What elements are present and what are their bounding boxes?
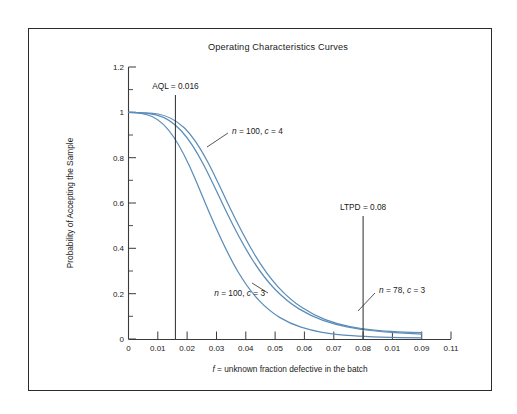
x-tick-label: 0.02 — [179, 344, 195, 353]
curve-n78-c3-label: n = 78, c = 3 — [379, 285, 426, 295]
curve-n100-c4-label-eq: = 100, — [237, 126, 265, 136]
x-tick-label: 0.04 — [238, 344, 254, 353]
x-tick-label: 0.09 — [414, 344, 430, 353]
y-axis-title: Probability of Accepting the Sample — [65, 137, 75, 268]
curve-n78-c3 — [129, 112, 422, 334]
aql-label: AQL = 0.016 — [152, 81, 199, 91]
y-tick-label: 1.2 — [113, 63, 125, 72]
curve-n78-c3-label-eq: = 78, — [384, 285, 407, 295]
y-tick-label: 0 — [120, 335, 125, 344]
y-axis-ticks — [129, 67, 137, 339]
curve-n100-c3-label-eq: = 100, — [219, 288, 247, 298]
y-tick-label: 0.4 — [113, 244, 125, 253]
y-tick-label: 1 — [120, 108, 125, 117]
curve-n100-c3-label: n = 100, c = 3 — [214, 288, 265, 298]
x-tick-label: 0.01 — [385, 344, 401, 353]
curve-n100-c4 — [129, 112, 422, 332]
curve-n100-c4-label-val: = 4 — [269, 126, 283, 136]
y-axis-tick-labels: 1.2 1 0.8 0.6 0.4 0.2 0 — [113, 63, 125, 344]
curve-n100-c4-leader — [207, 133, 228, 147]
x-axis-title: f = unknown fraction defective in the ba… — [212, 364, 368, 374]
curve-n100-c3-label-val: = 3 — [251, 288, 265, 298]
figure-root: Operating Characteristics Curves 1.2 1 — [0, 0, 517, 414]
curve-n78-c3-label-val: = 3 — [411, 285, 425, 295]
y-tick-label: 0.8 — [113, 154, 125, 163]
x-tick-label: 0.11 — [444, 344, 460, 353]
x-axis-title-text: = unknown fraction defective in the batc… — [215, 364, 368, 374]
x-tick-label: 0.03 — [209, 344, 225, 353]
y-tick-label: 0.6 — [113, 199, 125, 208]
x-tick-label: 0.06 — [297, 344, 313, 353]
curve-n78-c3-leader — [358, 293, 375, 311]
x-tick-label: 0.08 — [355, 344, 371, 353]
ltpd-label: LTPD = 0.08 — [340, 202, 387, 212]
x-axis-tick-labels: 0 0.01 0.02 0.03 0.04 0.05 0.06 0.07 0.0… — [126, 344, 459, 353]
chart-title: Operating Characteristics Curves — [208, 42, 348, 52]
y-tick-label: 0.2 — [113, 290, 125, 299]
x-tick-label: 0.05 — [267, 344, 283, 353]
oc-curves-chart: Operating Characteristics Curves 1.2 1 — [0, 0, 517, 414]
x-tick-label: 0.07 — [326, 344, 342, 353]
curve-n100-c3 — [129, 112, 422, 338]
curve-n100-c4-label: n = 100, c = 4 — [232, 126, 283, 136]
x-tick-label: 0.01 — [150, 344, 166, 353]
x-tick-label: 0 — [126, 344, 131, 353]
